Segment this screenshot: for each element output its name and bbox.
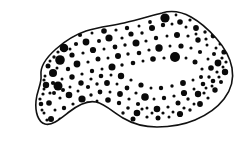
stipple-dot xyxy=(109,91,112,94)
stipple-dot xyxy=(101,28,107,34)
stipple-dot xyxy=(156,116,161,121)
stipple-dot xyxy=(185,57,188,60)
stipple-dot xyxy=(105,34,112,41)
stipple-dot xyxy=(154,36,158,40)
stipple-dot xyxy=(44,75,47,78)
stipple-dot xyxy=(90,47,96,53)
stipple-dot xyxy=(138,25,141,28)
stipple-dot xyxy=(176,101,181,106)
stipple-dot xyxy=(150,56,156,62)
stipple-dot xyxy=(148,20,152,24)
stipple-dot xyxy=(137,51,142,56)
stipple-dot xyxy=(121,111,124,114)
stipple-dot xyxy=(172,111,175,114)
stipple-dot xyxy=(144,39,147,42)
stipple-dot xyxy=(181,90,187,96)
stipple-dot xyxy=(175,14,178,17)
stipple-dot xyxy=(83,39,90,46)
stipple-dot xyxy=(129,78,132,81)
stipple-dot xyxy=(89,93,92,96)
stipple-dot xyxy=(193,25,199,31)
stipple-dot xyxy=(159,86,163,90)
stipple-dot xyxy=(49,69,57,77)
stipple-dot xyxy=(160,13,169,22)
stipple-dot xyxy=(90,69,94,73)
stipple-dot xyxy=(145,115,148,118)
stipple-dot xyxy=(69,52,74,57)
stipple-dot xyxy=(154,106,161,113)
stipple-dot xyxy=(78,95,85,102)
stipple-dot xyxy=(138,82,143,87)
stipple-dot xyxy=(170,52,180,62)
stipple-dot xyxy=(61,78,64,81)
stipple-dot xyxy=(95,82,98,85)
stipple-dot xyxy=(197,101,203,107)
stipple-dot xyxy=(208,65,214,71)
stipple-dot xyxy=(192,79,195,82)
stipple-dot xyxy=(222,66,225,69)
stipple-dot xyxy=(86,85,90,89)
stipple-dot xyxy=(126,52,129,55)
stipple-dot xyxy=(54,109,57,112)
stipple-dot xyxy=(78,80,83,85)
stipple-dot xyxy=(38,97,41,100)
stipple-dot xyxy=(43,82,49,88)
stipple-dot xyxy=(215,60,222,67)
stipple-dot xyxy=(110,74,113,77)
stipple-dot xyxy=(205,87,208,90)
stipple-dot xyxy=(195,91,201,97)
stipple-dot xyxy=(169,45,172,48)
stipple-dot xyxy=(71,102,74,105)
stipple-dot xyxy=(42,78,45,81)
stipple-dot xyxy=(103,48,106,51)
stipple-dot xyxy=(162,96,166,100)
stipple-dot xyxy=(62,106,66,110)
stipple-dot xyxy=(107,57,110,60)
stipple-dot xyxy=(123,43,126,46)
stipple-dot xyxy=(52,91,56,95)
stipple-dot xyxy=(186,97,189,100)
stipple-dot xyxy=(177,111,183,117)
stipple-dot xyxy=(204,37,207,40)
stipple-dot xyxy=(174,32,180,38)
stipple-dot xyxy=(171,23,174,26)
stipple-dot xyxy=(222,69,228,75)
stipple-dot xyxy=(203,30,206,33)
stipple-dot xyxy=(146,107,149,110)
stipple-dot xyxy=(101,68,104,71)
stipple-dot xyxy=(150,87,153,90)
stipple-dot xyxy=(91,32,94,35)
stipple-dot xyxy=(199,75,203,79)
stipple-dot xyxy=(56,67,59,70)
stipple-dot xyxy=(46,100,52,106)
stipple-dot xyxy=(41,92,44,95)
stipple-dot xyxy=(182,106,185,109)
stipple-dot xyxy=(178,43,183,48)
stipple-dot xyxy=(200,67,203,70)
stipple-dot xyxy=(74,61,81,68)
stipple-dot xyxy=(58,96,61,99)
stipple-dot xyxy=(207,58,210,61)
stipple-dot xyxy=(149,25,155,31)
stipple-dot xyxy=(202,91,205,94)
stipple-dot xyxy=(77,90,80,93)
stipple-dot xyxy=(134,110,141,117)
stipple-dot xyxy=(56,50,59,53)
stipple-dot xyxy=(120,63,123,66)
stipple-dot xyxy=(120,36,123,39)
stipple-dot xyxy=(217,75,220,78)
stipple-dot xyxy=(170,84,173,87)
stipple-dot xyxy=(201,82,206,87)
stipple-dot xyxy=(105,97,111,103)
stipple-dot xyxy=(212,52,216,56)
stipple-dot xyxy=(66,92,73,99)
stipple-dot xyxy=(147,48,150,51)
stipple-dot xyxy=(49,60,52,63)
stipple-dot xyxy=(142,60,145,63)
stipple-dot xyxy=(61,88,65,92)
stipple-dot xyxy=(114,28,117,31)
stipple-dot xyxy=(166,105,169,108)
stipple-dot xyxy=(128,31,133,36)
stipple-dot xyxy=(212,87,217,92)
stipple-dot xyxy=(215,47,218,50)
